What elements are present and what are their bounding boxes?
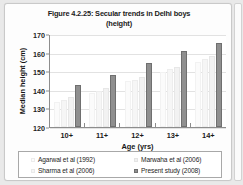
y-axis-tick-label: 150 <box>33 68 45 77</box>
y-axis-tick-mark <box>46 128 49 129</box>
page-edge-strip <box>234 3 242 181</box>
x-axis-tick-label: 10+ <box>49 131 84 140</box>
y-axis-tick-label: 130 <box>33 105 45 114</box>
y-axis-tick-mark <box>46 53 49 54</box>
screenshot-root: Figure 4.2.25: Secular trends in Delhi b… <box>0 0 243 185</box>
legend-swatch-icon <box>31 158 35 162</box>
y-axis-title: Median height (cm) <box>18 41 27 121</box>
y-axis-tick-mark <box>46 109 49 110</box>
bar <box>132 80 138 127</box>
bar-group <box>85 35 120 127</box>
bar-group <box>50 35 85 127</box>
legend-swatch-icon <box>134 169 138 173</box>
bar <box>68 97 74 127</box>
bar <box>61 100 67 127</box>
bar <box>181 51 187 127</box>
y-axis-tick-mark <box>46 90 49 91</box>
bar <box>96 91 102 127</box>
chart-title-line-1: Figure 4.2.25: Secular trends in Delhi b… <box>48 9 191 18</box>
legend-swatch-icon <box>134 158 138 162</box>
legend-label: Agarwal et al (1992) <box>38 156 95 163</box>
bar <box>75 85 81 127</box>
y-axis-tick-label: 120 <box>33 124 45 133</box>
legend: Agarwal et al (1992)Marwaha et al (2006)… <box>18 151 222 178</box>
x-axis-tick-label: 14+ <box>191 131 226 140</box>
bar <box>146 63 152 127</box>
bar-group <box>156 35 191 127</box>
legend-label: Marwaha et al (2006) <box>141 156 201 163</box>
bar <box>209 56 215 127</box>
y-axis-tick-label: 140 <box>33 86 45 95</box>
bar <box>89 93 95 127</box>
bar <box>125 81 131 127</box>
chart-title-line-2: (height) <box>15 19 223 29</box>
y-axis-tick-label: 170 <box>33 31 45 40</box>
bar <box>195 62 201 127</box>
bar-groups <box>50 35 226 127</box>
y-axis-tick-label: 160 <box>33 49 45 58</box>
plot-area <box>49 35 226 128</box>
plot-wrapper: Median height (cm) 120130140150160170 <box>49 35 226 128</box>
bar <box>167 69 173 127</box>
bar <box>216 43 222 127</box>
legend-label: Sharma et al (2006) <box>38 167 94 174</box>
legend-item: Sharma et al (2006) <box>23 167 120 174</box>
bar <box>139 77 145 127</box>
x-axis-tick-labels: 10+11+12+13+14+ <box>49 131 226 140</box>
legend-swatch-icon <box>31 169 35 173</box>
legend-item: Present study (2008) <box>120 167 217 174</box>
y-axis-tick-mark <box>46 35 49 36</box>
x-axis-title: Age (yrs) <box>49 142 226 151</box>
bar <box>54 102 60 127</box>
bar-group <box>120 35 155 127</box>
bar <box>174 67 180 127</box>
x-axis-tick-label: 13+ <box>155 131 190 140</box>
legend-label: Present study (2008) <box>141 167 200 174</box>
bar <box>103 88 109 127</box>
x-axis-tick-label: 12+ <box>120 131 155 140</box>
bar <box>160 72 166 127</box>
legend-item: Agarwal et al (1992) <box>23 156 120 163</box>
y-axis-tick-mark <box>46 72 49 73</box>
x-axis-tick-label: 11+ <box>84 131 119 140</box>
gridline <box>50 128 226 129</box>
bar <box>202 59 208 127</box>
chart-title: Figure 4.2.25: Secular trends in Delhi b… <box>15 9 223 29</box>
legend-item: Marwaha et al (2006) <box>120 156 217 163</box>
chart-card: Figure 4.2.25: Secular trends in Delhi b… <box>4 3 232 181</box>
legend-grid: Agarwal et al (1992)Marwaha et al (2006)… <box>23 154 217 176</box>
bar-group <box>191 35 226 127</box>
bar <box>110 75 116 127</box>
